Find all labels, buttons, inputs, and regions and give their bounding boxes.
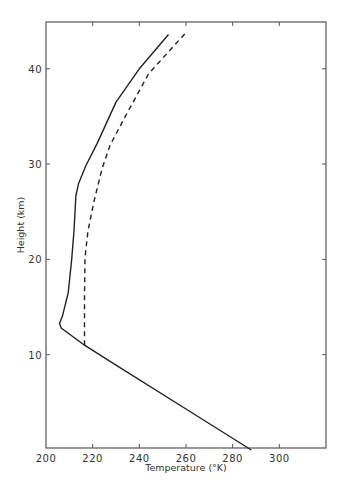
data-series — [60, 33, 252, 450]
dashed-profile-line — [85, 33, 187, 346]
x-axis-title: Temperature (°K) — [144, 462, 227, 473]
temperature-height-chart: 20022024026028030010203040 Temperature (… — [0, 0, 341, 487]
axis-tick-labels: 20022024026028030010203040 — [28, 64, 289, 464]
x-tick-label: 200 — [36, 453, 57, 464]
y-tick-label: 40 — [28, 64, 42, 75]
solid-profile-line — [60, 35, 252, 451]
y-axis-title: Height (km) — [15, 197, 26, 254]
y-tick-label: 10 — [28, 350, 42, 361]
x-tick-label: 220 — [82, 453, 103, 464]
y-tick-label: 30 — [28, 159, 42, 170]
y-tick-label: 20 — [28, 254, 42, 265]
x-tick-label: 300 — [269, 453, 290, 464]
